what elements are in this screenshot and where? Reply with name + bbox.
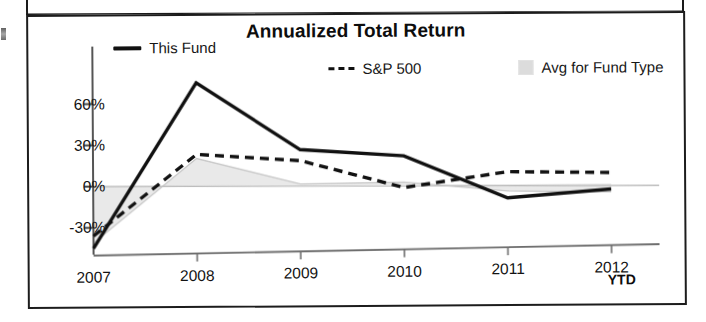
x-axis-labels: 200720082009201020112012 — [28, 13, 685, 307]
x-axis-tick-label: 2011 — [491, 260, 524, 278]
x-axis-ytd-label: YTD — [608, 271, 636, 287]
x-axis-tick-label: 2008 — [180, 266, 215, 284]
page-edge-artifact — [1, 28, 6, 40]
x-axis-tick-label: 2010 — [387, 262, 422, 280]
chart-panel: Annualized Total Return This Fund S&P 50… — [26, 11, 687, 309]
x-axis-tick-label: 2007 — [76, 269, 111, 287]
x-axis-tick-label: 2009 — [284, 264, 319, 282]
scanned-page: Annualized Total Return This Fund S&P 50… — [0, 0, 706, 322]
